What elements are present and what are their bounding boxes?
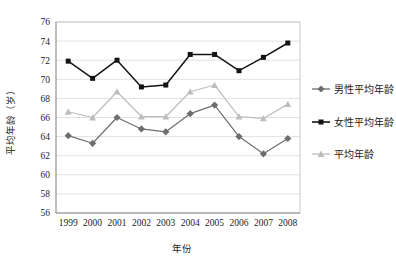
y-tick-label: 64 bbox=[41, 132, 51, 142]
data-point-square bbox=[212, 52, 217, 57]
legend-label-2: 平均年龄 bbox=[334, 148, 374, 160]
data-point-diamond bbox=[65, 132, 72, 139]
x-tick-label: 2007 bbox=[254, 218, 273, 228]
legend-label-1: 女性平均年龄 bbox=[334, 116, 394, 128]
x-tick-label: 2004 bbox=[181, 218, 200, 228]
y-axis-tick-labels: 5658606264666870727476 bbox=[41, 17, 51, 218]
data-point-diamond bbox=[317, 85, 324, 92]
data-point-square bbox=[90, 76, 95, 81]
series-line bbox=[68, 85, 288, 118]
y-tick-label: 76 bbox=[41, 17, 51, 27]
x-axis-title: 年份 bbox=[172, 243, 192, 254]
data-point-diamond bbox=[138, 125, 145, 132]
data-point-triangle bbox=[284, 101, 291, 107]
x-axis-tick-labels: 1999200020012002200320042005200620072008 bbox=[59, 218, 298, 228]
series-1 bbox=[66, 41, 291, 90]
data-point-square bbox=[319, 120, 324, 125]
data-point-square bbox=[66, 59, 71, 64]
data-point-square bbox=[188, 52, 193, 57]
data-point-square bbox=[237, 68, 242, 73]
data-point-diamond bbox=[260, 150, 267, 157]
y-tick-label: 66 bbox=[41, 113, 51, 123]
y-axis-title: 平均年龄（岁） bbox=[5, 85, 16, 155]
data-point-triangle bbox=[211, 82, 218, 88]
y-tick-label: 74 bbox=[41, 37, 51, 47]
data-point-diamond bbox=[284, 135, 291, 142]
chart-legend: 男性平均年龄女性平均年龄平均年龄 bbox=[312, 83, 394, 160]
data-series-group bbox=[65, 41, 292, 158]
y-tick-label: 68 bbox=[41, 94, 51, 104]
series-0 bbox=[65, 101, 292, 157]
x-tick-label: 2002 bbox=[132, 218, 151, 228]
x-tick-label: 2003 bbox=[156, 218, 175, 228]
data-point-square bbox=[115, 58, 120, 63]
series-line bbox=[68, 105, 288, 154]
data-point-square bbox=[139, 84, 144, 89]
y-tick-label: 58 bbox=[41, 189, 51, 199]
x-tick-label: 2005 bbox=[205, 218, 224, 228]
chart-canvas: 5658606264666870727476 19992000200120022… bbox=[0, 0, 396, 269]
x-tick-label: 1999 bbox=[59, 218, 78, 228]
data-point-triangle bbox=[65, 108, 72, 114]
series-line bbox=[68, 43, 288, 87]
x-tick-label: 2008 bbox=[278, 218, 297, 228]
x-tick-label: 2001 bbox=[108, 218, 127, 228]
series-2 bbox=[65, 82, 291, 122]
y-tick-label: 60 bbox=[41, 170, 51, 180]
data-point-square bbox=[261, 55, 266, 60]
x-tick-label: 2006 bbox=[230, 218, 249, 228]
y-tick-label: 72 bbox=[41, 56, 51, 66]
data-point-square bbox=[285, 41, 290, 46]
line-chart-container: 5658606264666870727476 19992000200120022… bbox=[0, 0, 396, 269]
y-tick-label: 56 bbox=[41, 208, 51, 218]
x-tick-label: 2000 bbox=[83, 218, 102, 228]
y-tick-label: 70 bbox=[41, 75, 51, 85]
data-point-triangle bbox=[114, 88, 121, 94]
y-tick-label: 62 bbox=[41, 151, 51, 161]
legend-label-0: 男性平均年龄 bbox=[334, 83, 394, 95]
data-point-square bbox=[163, 83, 168, 88]
